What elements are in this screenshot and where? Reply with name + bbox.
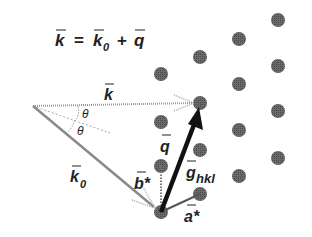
lattice-point (154, 67, 168, 81)
eq-plus: + (117, 31, 127, 50)
k-vector (33, 95, 194, 111)
eq-k0-sub: 0 (103, 41, 110, 53)
eq-equals: = (74, 31, 84, 50)
k-label: k (104, 86, 114, 103)
theta-label-1: θ (82, 107, 89, 121)
lattice-point (232, 32, 246, 46)
g-hkl-label: g (185, 164, 196, 181)
theta-arc-1 (75, 106, 79, 120)
k0-vector (33, 106, 155, 208)
lattice-point (193, 143, 207, 157)
reciprocal-lattice (154, 13, 285, 219)
lattice-point (193, 50, 207, 64)
a-star-label: a* (184, 208, 200, 225)
k0-label-sub: 0 (80, 178, 87, 190)
lattice-point (232, 77, 246, 91)
theta-label-2: θ (77, 124, 84, 138)
theta-arc-2 (68, 120, 75, 132)
lattice-point (232, 123, 246, 137)
ewald-diagram: k = k 0 + q θ θ k k 0 b* a* q g (0, 0, 312, 237)
equation: k = k 0 + q (55, 30, 145, 53)
lattice-point (271, 151, 285, 165)
g-hkl-sub: hkl (196, 171, 215, 186)
lattice-point (154, 115, 168, 129)
q-label: q (160, 138, 170, 155)
lattice-point (193, 96, 207, 110)
lattice-point (232, 169, 246, 183)
b-star-label: b* (134, 175, 151, 192)
bisector-line (33, 106, 110, 133)
eq-q: q (134, 31, 145, 50)
eq-k: k (55, 31, 66, 50)
lattice-point (271, 104, 285, 118)
lattice-point (271, 13, 285, 27)
lattice-point (271, 59, 285, 73)
k0-label: k (70, 168, 80, 185)
